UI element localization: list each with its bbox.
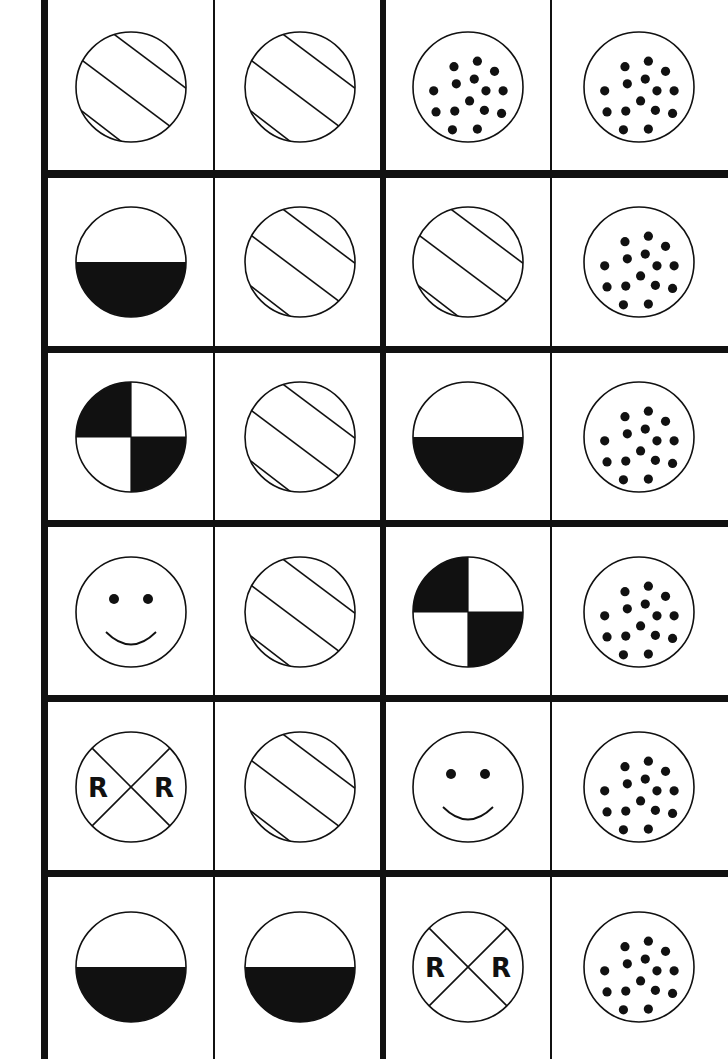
board-cell[interactable] <box>550 699 728 874</box>
half-filled-circle-icon <box>71 202 191 322</box>
svg-text:R: R <box>87 773 107 803</box>
dotted-circle-icon <box>579 27 699 147</box>
board-cell[interactable] <box>386 0 550 174</box>
board-cell[interactable] <box>213 699 386 874</box>
dotted-circle-icon <box>579 377 699 497</box>
board-cell[interactable]: R R <box>48 699 213 874</box>
board-cell[interactable] <box>213 174 386 350</box>
half-filled-circle-icon <box>240 907 360 1027</box>
board-cell[interactable] <box>550 0 728 174</box>
smiley-face-icon <box>408 727 528 847</box>
board-cell[interactable] <box>386 174 550 350</box>
board-cell[interactable] <box>48 0 213 174</box>
grid-divider-row <box>41 346 728 353</box>
board-cell[interactable] <box>48 524 213 699</box>
dotted-circle-icon <box>579 552 699 672</box>
board-cell[interactable] <box>550 350 728 524</box>
smiley-face-icon <box>71 552 191 672</box>
striped-circle-icon <box>240 377 360 497</box>
striped-circle-icon <box>240 202 360 322</box>
striped-circle-icon <box>240 552 360 672</box>
board-cell[interactable] <box>213 874 386 1059</box>
board-cell[interactable] <box>386 350 550 524</box>
board-cell[interactable] <box>213 350 386 524</box>
board-cell[interactable] <box>386 699 550 874</box>
dotted-circle-icon <box>408 27 528 147</box>
striped-circle-icon <box>240 727 360 847</box>
half-filled-circle-icon <box>71 907 191 1027</box>
grid-divider-row <box>41 170 728 178</box>
grid-divider-row <box>41 870 728 877</box>
board-cell[interactable] <box>213 0 386 174</box>
grid-divider-thin <box>213 0 215 1059</box>
railroad-crossing-icon: R R <box>408 907 528 1027</box>
svg-text:R: R <box>491 953 511 983</box>
grid-divider-thick <box>41 0 48 1059</box>
board-cell[interactable]: R R <box>386 874 550 1059</box>
railroad-crossing-icon: R R <box>71 727 191 847</box>
striped-circle-icon <box>408 202 528 322</box>
board-cell[interactable] <box>48 174 213 350</box>
grid-divider-thin <box>550 0 552 1059</box>
board-cell[interactable] <box>550 874 728 1059</box>
board-cell[interactable] <box>550 524 728 699</box>
grid-divider-row <box>41 695 728 702</box>
board-cell[interactable] <box>550 174 728 350</box>
dotted-circle-icon <box>579 202 699 322</box>
svg-text:R: R <box>425 953 445 983</box>
quartered-circle-icon <box>408 552 528 672</box>
striped-circle-icon <box>71 27 191 147</box>
grid-divider-thick <box>380 0 386 1059</box>
quartered-circle-icon <box>71 377 191 497</box>
board-cell[interactable] <box>48 874 213 1059</box>
board-cell[interactable] <box>48 350 213 524</box>
grid-divider-row <box>41 520 728 527</box>
dotted-circle-icon <box>579 727 699 847</box>
half-filled-circle-icon <box>408 377 528 497</box>
board-cell[interactable] <box>386 524 550 699</box>
game-board: R R R R <box>0 0 728 1059</box>
board-cell[interactable] <box>213 524 386 699</box>
svg-text:R: R <box>153 773 173 803</box>
striped-circle-icon <box>240 27 360 147</box>
dotted-circle-icon <box>579 907 699 1027</box>
